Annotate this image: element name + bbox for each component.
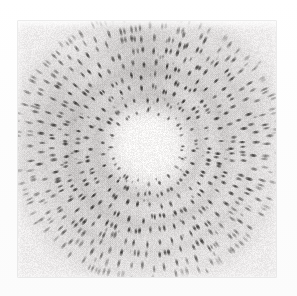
screenshot-root: Scanned black-and-white X-ray diffractio… — [0, 0, 297, 296]
diffraction-photograph — [18, 21, 276, 277]
diffraction-pattern-canvas — [18, 21, 276, 277]
